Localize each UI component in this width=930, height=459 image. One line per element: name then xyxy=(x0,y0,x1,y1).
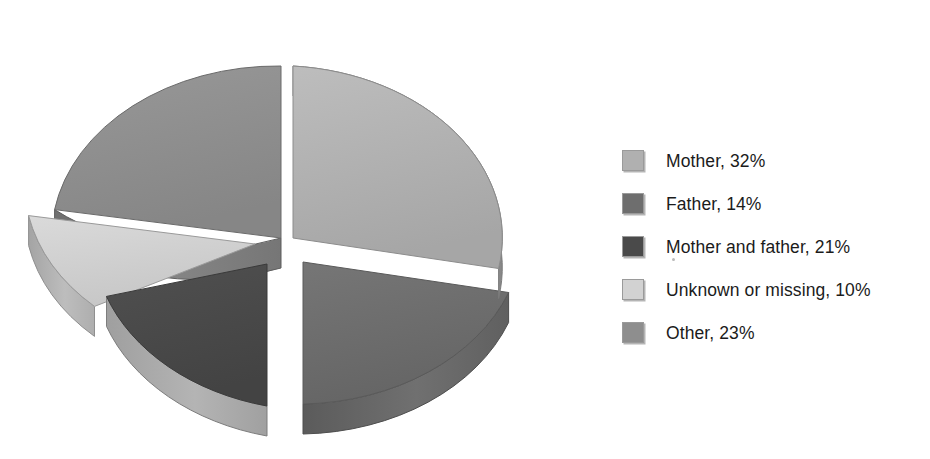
legend-label-mother-and-father: Mother and father, 21% xyxy=(666,237,850,257)
legend-item-mother[interactable]: Mother, 32% xyxy=(622,139,922,182)
legend-swatch-mother xyxy=(622,150,644,171)
legend-swatch-mother-and-father xyxy=(622,236,644,257)
legend-label-father: Father, 14% xyxy=(666,194,761,214)
pie-chart-svg xyxy=(0,0,560,459)
legend-label-mother: Mother, 32% xyxy=(666,151,765,171)
legend-label-other: Other, 23% xyxy=(666,323,755,343)
pie-slice-father[interactable] xyxy=(303,262,509,434)
legend-swatch-other xyxy=(622,322,644,343)
pie-slice-other-top xyxy=(55,66,281,238)
pie-slice-mother[interactable] xyxy=(293,66,502,299)
pie-chart-page: Mother, 32% Father, 14% Mother and fathe… xyxy=(0,0,930,459)
pie-chart-figure xyxy=(0,0,560,459)
chart-legend: Mother, 32% Father, 14% Mother and fathe… xyxy=(622,139,922,354)
pie-slice-father-top xyxy=(303,262,509,404)
legend-item-father[interactable]: Father, 14% xyxy=(622,182,922,225)
legend-swatch-unknown-or-missing xyxy=(622,279,644,300)
legend-label-unknown-or-missing: Unknown or missing, 10% xyxy=(666,280,871,300)
legend-swatch-father xyxy=(622,193,644,214)
pie-slice-mother-top xyxy=(293,66,502,269)
legend-item-other[interactable]: Other, 23% xyxy=(622,311,922,354)
legend-item-unknown-or-missing[interactable]: Unknown or missing, 10% xyxy=(622,268,922,311)
legend-item-mother-and-father[interactable]: Mother and father, 21% xyxy=(622,225,922,268)
